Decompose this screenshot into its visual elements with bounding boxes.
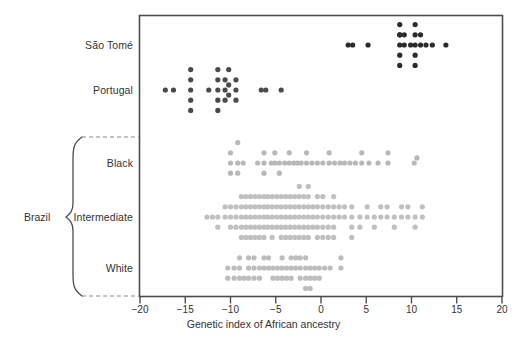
- data-point: [353, 160, 358, 165]
- x-tick-label: 10: [392, 304, 432, 315]
- data-point: [243, 204, 248, 209]
- data-point: [261, 235, 266, 240]
- data-point: [303, 286, 308, 291]
- data-point: [279, 87, 284, 92]
- data-point: [378, 214, 383, 219]
- data-point: [241, 276, 246, 281]
- data-point: [289, 265, 294, 270]
- data-point: [297, 204, 302, 209]
- data-point: [292, 194, 297, 199]
- data-point: [378, 204, 383, 209]
- data-point: [397, 32, 402, 37]
- data-point: [272, 160, 277, 165]
- data-point: [405, 214, 410, 219]
- data-point: [274, 225, 279, 230]
- data-point: [261, 255, 266, 260]
- data-point: [266, 255, 271, 260]
- data-point: [298, 276, 303, 281]
- data-point: [188, 98, 193, 103]
- data-point: [261, 171, 266, 176]
- data-point: [279, 204, 284, 209]
- data-point: [326, 225, 331, 230]
- data-point: [228, 204, 233, 209]
- data-point: [283, 225, 288, 230]
- data-point: [259, 87, 264, 92]
- data-point: [315, 225, 320, 230]
- data-point: [308, 265, 313, 270]
- data-point: [392, 214, 397, 219]
- data-point: [306, 184, 311, 189]
- data-point: [228, 171, 233, 176]
- data-point: [222, 98, 227, 103]
- data-point: [298, 265, 303, 270]
- data-point: [251, 255, 256, 260]
- x-tick-label: 20: [482, 304, 522, 315]
- data-point: [366, 160, 371, 165]
- x-tick-label: 0: [301, 304, 341, 315]
- data-point: [418, 32, 423, 37]
- data-point: [210, 214, 215, 219]
- data-point: [372, 225, 377, 230]
- data-point: [397, 53, 402, 58]
- data-point: [385, 160, 390, 165]
- data-point: [397, 42, 402, 47]
- data-point: [310, 225, 315, 230]
- data-point: [243, 194, 248, 199]
- data-point: [257, 214, 262, 219]
- data-point: [283, 235, 288, 240]
- data-point: [188, 108, 193, 113]
- data-point: [413, 22, 418, 27]
- data-point: [349, 235, 354, 240]
- data-point: [228, 225, 233, 230]
- data-point: [320, 194, 325, 199]
- data-point: [320, 225, 325, 230]
- data-point: [293, 255, 298, 260]
- data-point: [261, 160, 266, 165]
- data-point: [243, 214, 248, 219]
- data-point: [301, 225, 306, 230]
- data-point: [308, 276, 313, 281]
- data-point: [265, 194, 270, 199]
- data-point: [306, 214, 311, 219]
- data-point: [326, 214, 331, 219]
- data-point: [288, 194, 293, 199]
- data-point: [204, 214, 209, 219]
- data-point: [326, 204, 331, 209]
- row-label-black: Black: [107, 157, 133, 169]
- data-point: [303, 265, 308, 270]
- data-point: [252, 204, 257, 209]
- data-point: [420, 204, 425, 209]
- data-point: [317, 276, 322, 281]
- data-point: [283, 204, 288, 209]
- data-point: [235, 171, 240, 176]
- data-point: [418, 42, 423, 47]
- data-point: [359, 160, 364, 165]
- data-point: [297, 184, 302, 189]
- data-point: [282, 160, 287, 165]
- data-point: [306, 235, 311, 240]
- data-point: [252, 194, 257, 199]
- data-point: [342, 204, 347, 209]
- data-point: [257, 276, 262, 281]
- data-point: [265, 214, 270, 219]
- data-point: [301, 214, 306, 219]
- data-point: [272, 150, 277, 155]
- data-point: [275, 265, 280, 270]
- data-point: [277, 171, 282, 176]
- data-point: [327, 150, 332, 155]
- x-tick-label: 15: [437, 304, 477, 315]
- x-tick-label: −15: [165, 304, 205, 315]
- data-point: [320, 160, 325, 165]
- data-point: [357, 214, 362, 219]
- data-point: [306, 204, 311, 209]
- data-point: [298, 255, 303, 260]
- data-point: [270, 204, 275, 209]
- data-point: [239, 194, 244, 199]
- data-point: [222, 204, 227, 209]
- data-point: [274, 194, 279, 199]
- data-point: [337, 160, 342, 165]
- data-point: [188, 87, 193, 92]
- data-point: [317, 265, 322, 270]
- data-point: [413, 225, 418, 230]
- data-point: [359, 150, 364, 155]
